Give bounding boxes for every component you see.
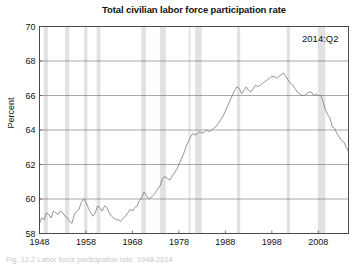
x-tick-label: 1978 [169,237,189,247]
x-tick-label: 1958 [76,237,96,247]
y-tick-label: 70 [25,22,35,32]
y-tick-label: 60 [25,194,35,204]
x-tick-label: 1948 [29,237,49,247]
y-tick-label: 66 [25,91,35,101]
plot-area: 58606264666870 1948195819681978198819982… [0,0,358,266]
y-tick-label: 64 [25,125,35,135]
x-tick-label: 1998 [262,237,282,247]
y-tick-labels-group: 58606264666870 [25,22,35,239]
figure-container: Total civilian labor force participation… [0,0,358,266]
y-tick-label: 68 [25,56,35,66]
y-tick-label: 62 [25,160,35,170]
x-tick-labels-group: 1948195819681978198819982008 [29,237,328,247]
x-tick-label: 1968 [122,237,142,247]
annotation-2014q2: 2014:Q2 [302,33,338,44]
x-tick-label: 2008 [308,237,328,247]
x-tick-label: 1988 [215,237,235,247]
figure-caption: Fig. 12.2 Labor force participation rate… [6,255,336,265]
